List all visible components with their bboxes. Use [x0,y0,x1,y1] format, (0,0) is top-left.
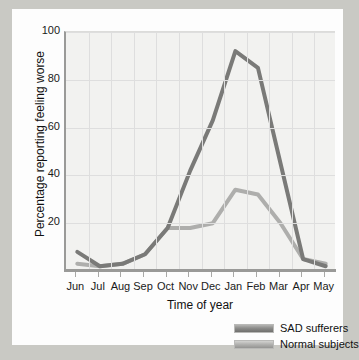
gridline-vertical [89,32,90,270]
x-axis-tick [120,272,121,277]
x-axis-tick [98,272,99,277]
x-axis-tick [143,272,144,277]
legend-item-sad: SAD sufferers [234,321,354,335]
gridline-vertical [314,32,315,270]
y-axis-tick-label: 20 [30,216,60,227]
x-axis-tick [256,272,257,277]
y-axis-tick-label: 80 [30,73,60,84]
x-axis-title: Time of year [64,298,336,312]
gridline-vertical [202,32,203,270]
x-axis-line [64,269,336,272]
gridline-vertical [111,32,112,270]
plot-area [64,31,335,270]
legend-label-sad-sufferers: SAD sufferers [280,322,348,334]
x-axis-tick [233,272,234,277]
gridline-horizontal [66,175,335,176]
legend-item-normal: Normal subjects [234,337,354,351]
gridline-horizontal [66,80,335,81]
legend-swatch-sad-sufferers [234,324,274,333]
gridline-vertical [292,32,293,270]
legend-swatch-normal-subjects [234,340,274,349]
gridline-horizontal [66,32,335,33]
x-axis-tick [75,272,76,277]
x-axis-tick [211,272,212,277]
legend-label-normal-subjects: Normal subjects [280,338,359,350]
gridline-vertical [134,32,135,270]
y-axis-tick-label: 40 [30,168,60,179]
gridline-vertical [224,32,225,270]
gridline-horizontal [66,128,335,129]
x-axis-tick-label: May [307,279,341,293]
x-axis-tick [166,272,167,277]
gridline-vertical [247,32,248,270]
gridline-vertical [269,32,270,270]
chart-legend: SAD sufferers Normal subjects [234,321,354,353]
y-axis-tick-label: 60 [30,121,60,132]
y-axis-tick-label: 100 [30,25,60,36]
gridline-vertical [156,32,157,270]
x-axis-tick [188,272,189,277]
x-axis-tick [279,272,280,277]
chart-card: Percentage reporting feeling worse 20406… [12,9,343,345]
gridline-vertical [179,32,180,270]
x-axis-tick [301,272,302,277]
y-axis-tick-labels: 20406080100 [28,9,60,289]
gridline-horizontal [66,223,335,224]
x-axis-tick-labels: JunJulAugSepOctNovDecJanFebMarAprMay [64,279,336,295]
x-axis-tick [324,272,325,277]
